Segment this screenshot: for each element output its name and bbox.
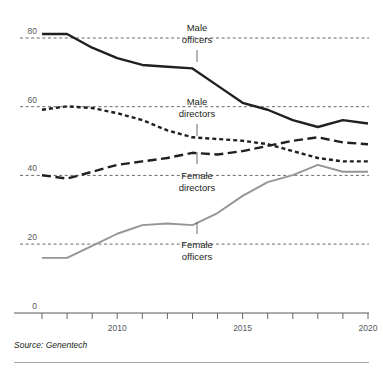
- y-tick-label-20: 20: [28, 232, 38, 242]
- annotation-male-officers-line1: Male: [187, 22, 208, 33]
- footer-divider: [14, 362, 369, 363]
- annotation-male-directors-line1: Male: [187, 96, 208, 107]
- source-note: Source: Genentech: [14, 340, 87, 350]
- data-series-layer: [42, 34, 368, 258]
- annotation-female-officers-line2: officers: [182, 251, 213, 262]
- y-tick-label-80: 80: [28, 26, 38, 36]
- annotation-female-directors-line2: directors: [179, 182, 216, 193]
- x-tick-label-2010: 2010: [108, 323, 127, 333]
- y-tick-label-40: 40: [28, 163, 38, 173]
- annotation-female-directors-line1: Female: [181, 170, 213, 181]
- annotation-male-officers: Male officers: [182, 22, 213, 62]
- x-axis-labels: 2010 2015 2020: [108, 323, 378, 333]
- annotation-male-directors-line2: directors: [179, 108, 216, 119]
- y-tick-label-60: 60: [28, 95, 38, 105]
- annotation-female-officers: Female officers: [181, 222, 213, 262]
- line-chart-svg: 80 60 40 20 0 2010 2015: [0, 0, 383, 375]
- x-axis-ticks: [42, 313, 368, 319]
- annotation-male-directors: Male directors: [179, 96, 216, 136]
- annotation-female-directors: Female directors: [179, 152, 216, 193]
- chart-container: 80 60 40 20 0 2010 2015: [0, 0, 383, 375]
- annotation-female-officers-line1: Female: [181, 239, 213, 250]
- y-tick-label-0: 0: [32, 301, 37, 311]
- x-tick-label-2020: 2020: [359, 323, 378, 333]
- annotation-male-officers-line2: officers: [182, 34, 213, 45]
- y-axis-labels: 80 60 40 20 0: [28, 26, 38, 311]
- x-tick-label-2015: 2015: [233, 323, 252, 333]
